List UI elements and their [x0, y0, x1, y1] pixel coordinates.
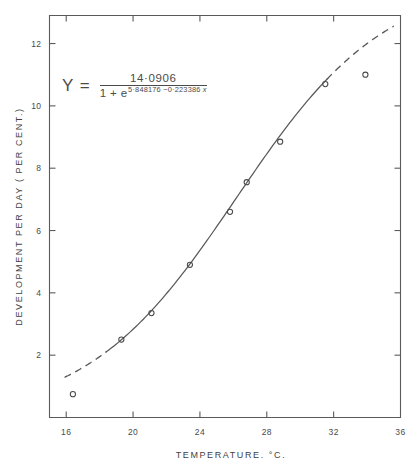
- chart-canvas: 16202428323624681012TEMPERATURE. °C.DEVE…: [0, 0, 417, 470]
- y-tick-label-6: 6: [36, 226, 41, 236]
- y-tick-label-8: 8: [36, 163, 41, 173]
- equation-exponent-b: 0·223386: [168, 85, 201, 94]
- data-point: [278, 139, 283, 144]
- x-axis-title: TEMPERATURE. °C.: [176, 450, 287, 460]
- x-tick-label-16: 16: [61, 427, 71, 437]
- x-tick-label-20: 20: [128, 427, 138, 437]
- fitted-curve-extrapolation-low: [65, 352, 107, 378]
- x-tick-label-36: 36: [395, 427, 405, 437]
- y-tick-label-12: 12: [31, 39, 41, 49]
- equation-exponent-variable: x: [203, 85, 207, 94]
- chart-figure: 16202428323624681012TEMPERATURE. °C.DEVE…: [0, 0, 417, 470]
- equation-exponent-a: 5·848176: [128, 85, 161, 94]
- fitted-equation-annotation: Y = 14·0906 1 + e5·848176 −0·223386 x: [62, 72, 207, 100]
- y-tick-label-10: 10: [31, 101, 41, 111]
- equation-exponent: 5·848176 −0·223386 x: [128, 86, 207, 94]
- data-point: [227, 209, 232, 214]
- fitted-curve-extrapolation-high: [327, 26, 394, 79]
- x-tick-label-28: 28: [262, 427, 272, 437]
- equation-denominator-base: 1 + e: [100, 87, 128, 99]
- equation-fraction: 14·0906 1 + e5·848176 −0·223386 x: [100, 72, 207, 100]
- y-tick-label-2: 2: [36, 350, 41, 360]
- x-tick-label-24: 24: [195, 427, 205, 437]
- fitted-curve: [106, 79, 327, 352]
- x-tick-label-32: 32: [329, 427, 339, 437]
- equation-numerator: 14·0906: [124, 72, 182, 85]
- equation-denominator: 1 + e5·848176 −0·223386 x: [100, 86, 207, 99]
- data-point: [363, 72, 368, 77]
- y-axis-title: DEVELOPMENT PER DAY ( PER CENT.): [14, 107, 24, 325]
- data-point: [70, 392, 75, 397]
- y-tick-label-4: 4: [36, 288, 41, 298]
- equation-left-hand-side: Y =: [62, 76, 91, 96]
- data-point: [323, 81, 328, 86]
